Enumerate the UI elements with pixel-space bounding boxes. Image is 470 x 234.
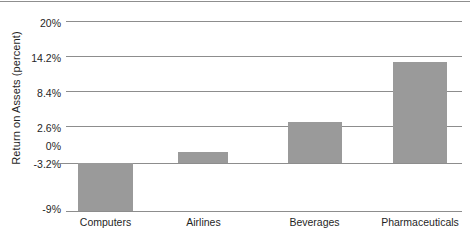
bar-computers <box>78 163 133 211</box>
y-tick-label-8-4: 8.4% <box>37 87 61 99</box>
bar-beverages <box>288 122 342 163</box>
y-tick-label-neg-9: -9% <box>42 203 61 215</box>
bar-chart: Return on Assets (percent) 20% 14.2% 8.4… <box>0 0 470 234</box>
bar-airlines <box>178 152 228 163</box>
gridline-20 <box>66 21 462 22</box>
y-axis-tick-labels: 20% 14.2% 8.4% 2.6% 0% -3.2% -9% <box>0 10 61 211</box>
gridline-14-2 <box>66 56 462 57</box>
x-tick-label-computers: Computers <box>66 216 145 228</box>
top-border-rule <box>0 1 470 2</box>
plot-area <box>66 10 462 211</box>
x-axis-line <box>66 211 462 212</box>
y-tick-label-0: 0% <box>46 140 61 152</box>
x-tick-label-pharmaceuticals: Pharmaceuticals <box>366 216 470 228</box>
y-tick-label-14-2: 14.2% <box>31 52 61 64</box>
y-tick-label-20: 20% <box>40 17 61 29</box>
x-axis-tick-labels: Computers Airlines Beverages Pharmaceuti… <box>66 214 462 234</box>
x-tick-label-beverages: Beverages <box>275 216 354 228</box>
gridline-neg-3-2-left-stub <box>52 163 66 164</box>
y-tick-label-2-6: 2.6% <box>37 122 61 134</box>
y-tick-label-neg-3-2: -3.2% <box>34 158 61 170</box>
bar-pharmaceuticals <box>393 62 447 163</box>
x-tick-label-airlines: Airlines <box>164 216 243 228</box>
